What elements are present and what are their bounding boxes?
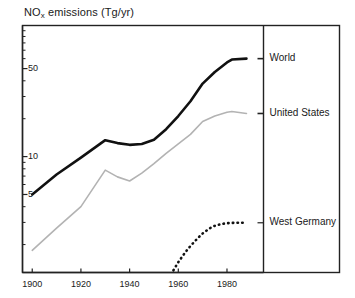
x-tick-label: 1900 xyxy=(12,279,52,289)
x-tick-label: 1920 xyxy=(61,279,101,289)
chart-title-main: NO xyxy=(24,6,41,18)
y-axis-ticks xyxy=(23,31,28,245)
data-series-layer xyxy=(32,59,246,271)
x-tick-label: 1980 xyxy=(207,279,247,289)
chart-title-rest: emissions (Tg/yr) xyxy=(45,6,134,18)
series-line-west-germany xyxy=(173,223,246,270)
y-tick-label: 5 xyxy=(28,189,33,199)
chart-title: NOx emissions (Tg/yr) xyxy=(24,6,134,20)
chart-canvas xyxy=(0,0,355,298)
x-tick-label: 1960 xyxy=(158,279,198,289)
legend-label-united-states: United States xyxy=(270,107,330,118)
chart-figure: NOx emissions (Tg/yr) 50105 190019201940… xyxy=(0,0,355,298)
series-line-united-states xyxy=(32,112,246,251)
legend-label-west-germany: West Germany xyxy=(270,216,337,227)
y-tick-label: 10 xyxy=(28,151,38,161)
x-tick-label: 1940 xyxy=(110,279,150,289)
y-tick-label: 50 xyxy=(28,63,38,73)
legend-label-world: World xyxy=(270,52,296,63)
